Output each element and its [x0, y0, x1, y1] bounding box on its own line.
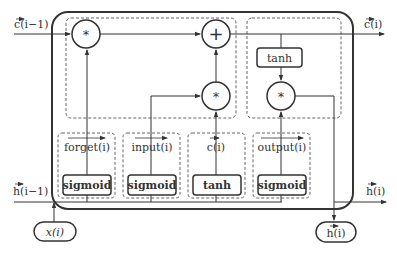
svg-text:x(i): x(i): [46, 226, 64, 239]
x-input-node: x(i): [34, 222, 76, 241]
svg-text:sigmoid: sigmoid: [63, 179, 112, 192]
input-gate-label: input(i): [131, 138, 172, 154]
lstm-diagram: * + * * tanh sigmoid sigmoid tanh sigmoi…: [0, 0, 397, 256]
h-output-node: h(i): [316, 222, 356, 242]
input-multiply-node: *: [202, 82, 230, 110]
output-multiply-node: *: [267, 82, 295, 110]
svg-text:forget(i): forget(i): [64, 141, 110, 154]
svg-text:sigmoid: sigmoid: [128, 179, 177, 192]
c-out-label: c(i): [364, 18, 382, 31]
svg-text:output(i): output(i): [258, 141, 307, 154]
input-sigmoid-box: sigmoid: [128, 175, 177, 195]
svg-text:*: *: [213, 89, 220, 104]
candidate-gate-label: c(i): [207, 138, 225, 154]
svg-text:tanh: tanh: [203, 179, 231, 192]
svg-text:h(i): h(i): [366, 185, 385, 198]
svg-text:sigmoid: sigmoid: [258, 179, 307, 192]
forget-sigmoid-box: sigmoid: [63, 175, 112, 195]
h-prev-label: h(i−1): [13, 184, 48, 198]
svg-text:+: +: [208, 23, 223, 44]
cell-tanh-box: tanh: [257, 48, 302, 67]
output-gate-label: output(i): [258, 138, 307, 154]
svg-text:tanh: tanh: [267, 52, 292, 65]
forget-multiply-node: *: [72, 20, 100, 48]
svg-text:c(i): c(i): [364, 18, 382, 31]
h-out-label: h(i): [366, 184, 385, 198]
output-sigmoid-box: sigmoid: [258, 175, 307, 195]
svg-text:h(i−1): h(i−1): [13, 185, 48, 198]
candidate-tanh-box: tanh: [193, 175, 241, 195]
forget-gate-label: forget(i): [64, 138, 110, 154]
svg-text:input(i): input(i): [131, 141, 172, 154]
svg-text:*: *: [278, 89, 285, 104]
output-group: [247, 18, 341, 118]
svg-text:*: *: [83, 27, 90, 42]
add-node: +: [202, 20, 230, 48]
c-prev-label: c(i−1): [14, 18, 48, 31]
svg-text:h(i): h(i): [326, 227, 345, 240]
svg-text:c(i): c(i): [207, 141, 225, 154]
svg-text:c(i−1): c(i−1): [14, 18, 48, 31]
